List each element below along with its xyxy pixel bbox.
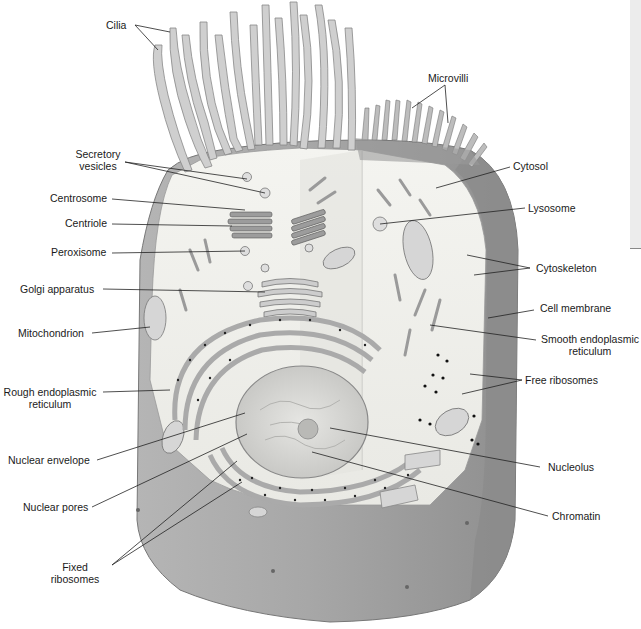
cell-diagram: Cilia Microvilli Secretory vesicles Cyto… bbox=[0, 0, 641, 629]
label-microvilli: Microvilli bbox=[428, 72, 468, 84]
label-peroxisome: Peroxisome bbox=[51, 246, 106, 258]
label-smooth-er-2: reticulum bbox=[538, 345, 641, 357]
label-nuclear-envelope: Nuclear envelope bbox=[8, 454, 90, 466]
label-fixed-ribosomes-1: Fixed bbox=[45, 561, 105, 573]
label-secretory-vesicles-2: vesicles bbox=[70, 160, 126, 172]
cilia-group bbox=[153, 2, 355, 172]
label-cell-membrane: Cell membrane bbox=[540, 302, 611, 314]
label-centriole: Centriole bbox=[65, 217, 107, 229]
nucleolus bbox=[298, 419, 318, 439]
label-cilia: Cilia bbox=[106, 19, 126, 31]
label-nuclear-pores: Nuclear pores bbox=[23, 501, 88, 513]
label-secretory-vesicles-1: Secretory bbox=[70, 148, 126, 160]
label-cytosol: Cytosol bbox=[513, 160, 548, 172]
label-lysosome: Lysosome bbox=[528, 202, 575, 214]
label-mitochondrion: Mitochondrion bbox=[18, 327, 84, 339]
label-smooth-er-1: Smooth endoplasmic bbox=[538, 333, 641, 345]
label-cytoskeleton: Cytoskeleton bbox=[536, 262, 597, 274]
label-nucleolus: Nucleolus bbox=[548, 461, 594, 473]
cell-illustration bbox=[0, 0, 641, 629]
label-centrosome: Centrosome bbox=[50, 192, 107, 204]
label-free-ribosomes: Free ribosomes bbox=[525, 374, 598, 386]
label-chromatin: Chromatin bbox=[552, 510, 600, 522]
label-rough-er-1: Rough endoplasmic bbox=[0, 386, 100, 398]
label-golgi-apparatus: Golgi apparatus bbox=[20, 283, 94, 295]
label-fixed-ribosomes-2: ribosomes bbox=[45, 573, 105, 585]
label-rough-er-2: reticulum bbox=[0, 398, 100, 410]
adjacent-panel-edge bbox=[630, 0, 641, 249]
